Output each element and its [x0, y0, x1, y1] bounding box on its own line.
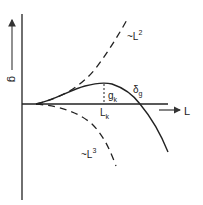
label-l-cubed: ~L3 — [81, 147, 96, 160]
x-axis-label: L — [184, 105, 190, 117]
y-axis-label: g — [7, 76, 19, 82]
curve-l-squared — [36, 18, 128, 104]
label-delta-g: δg — [133, 84, 143, 98]
label-g-k: gk — [108, 90, 118, 103]
label-l-k: Lk — [100, 107, 110, 120]
diagram-canvas: g L ~L2 δg gk Lk ~L3 — [0, 0, 203, 205]
label-l-squared: ~L2 — [127, 29, 142, 42]
